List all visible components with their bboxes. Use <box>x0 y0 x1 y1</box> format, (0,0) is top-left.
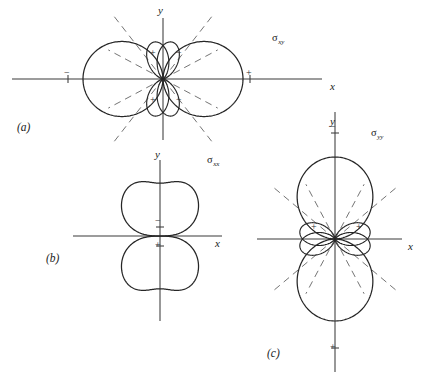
a-node-line-ne-inner <box>163 50 218 79</box>
c-node-line-nw <box>272 186 335 239</box>
b-plus-tick-down-sign: + <box>155 239 161 250</box>
b-minus-tick-up-sign: − <box>155 215 161 226</box>
c-minor-lobe-right-upper-sign: + <box>356 221 362 232</box>
panel-label-a: (a) <box>17 121 31 134</box>
a-minor-lobe-lower-right-sign: − <box>176 94 182 105</box>
a-x-axis-label: x <box>329 80 335 92</box>
a-minor-lobe-upper-right-sign: − <box>176 47 182 58</box>
polar-stress-figure: −++−+−xyσxy(a)−+xyσxx(b)−+++xyσyy(c) <box>0 0 423 383</box>
c-node-line-ne <box>335 186 398 239</box>
a-curve-subscript: xy <box>277 38 285 46</box>
panel-label-c: (c) <box>267 347 280 360</box>
b-curve-label: σxx <box>207 154 220 168</box>
c-node-line-se <box>335 239 398 292</box>
c-node-line-sw <box>272 239 335 292</box>
a-minus-tick-left-sign: − <box>64 67 70 78</box>
a-minor-lobe-lower-left-sign: + <box>150 94 156 105</box>
panels-group: −++−+−xyσxy(a)−+xyσxx(b)−+++xyσyy(c) <box>12 4 413 372</box>
a-minor-lobe-upper-left-sign: + <box>150 47 156 58</box>
panel-c: −+++xyσyy(c) <box>257 112 413 372</box>
c-minor-lobe-left-upper-sign: + <box>311 221 317 232</box>
c-curve-label: σyy <box>371 127 384 141</box>
b-y-axis-label: y <box>154 148 160 160</box>
a-curve-label: σxy <box>272 32 285 46</box>
c-curve-subscript: yy <box>376 133 384 141</box>
a-y-axis-label: y <box>157 4 163 16</box>
b-x-axis-label: x <box>214 237 220 249</box>
a-plus-tick-right-sign: + <box>246 67 252 78</box>
b-curve-subscript: xx <box>212 160 220 168</box>
c-x-axis-label: x <box>407 240 413 252</box>
panel-a: −++−+−xyσxy(a) <box>12 4 335 142</box>
figure-root: −++−+−xyσxy(a)−+xyσxx(b)−+++xyσyy(c) <box>0 0 423 383</box>
a-node-line-sw <box>114 79 163 142</box>
a-node-line-se-inner <box>163 79 218 108</box>
panel-b: −+xyσxx(b) <box>46 148 222 321</box>
c-y-axis-label: y <box>329 115 335 127</box>
panel-label-b: (b) <box>46 252 60 265</box>
a-node-line-se <box>163 79 212 142</box>
a-node-line-ne <box>163 16 212 79</box>
c-plus-tick-down-sign: + <box>330 341 336 352</box>
